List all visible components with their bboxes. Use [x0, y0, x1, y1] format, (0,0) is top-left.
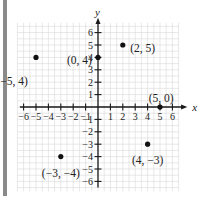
- y-tick-label: −6: [82, 176, 93, 187]
- y-tick-label: −4: [82, 151, 93, 162]
- y-axis-label: y: [94, 6, 100, 18]
- data-point-label: (−3, −4): [42, 167, 80, 180]
- y-tick-label: −2: [82, 126, 93, 137]
- y-tick-label: 3: [88, 64, 93, 75]
- x-tick-label: −5: [31, 111, 42, 122]
- y-axis-arrow-icon: [96, 18, 101, 24]
- coordinate-plane: xy −6−5−4−3−2−1123456−6−5−4−3−2−1123456 …: [0, 0, 204, 203]
- x-tick-label: −3: [55, 111, 66, 122]
- y-tick-label: 5: [88, 40, 93, 51]
- x-tick-label: −2: [68, 111, 79, 122]
- x-tick-label: 4: [145, 111, 150, 122]
- x-tick-label: 3: [133, 111, 138, 122]
- y-tick-label: 1: [88, 89, 93, 100]
- data-point-label: (−5, 4): [0, 75, 28, 88]
- y-tick-label: 6: [88, 27, 93, 38]
- x-axis-arrow-icon: [181, 105, 187, 110]
- data-point-label: (0, 4): [67, 54, 92, 67]
- x-tick-label: −6: [18, 111, 29, 122]
- data-point-label: (5, 0): [149, 92, 174, 105]
- y-tick-label: −3: [82, 139, 93, 150]
- x-tick-label: 1: [108, 111, 113, 122]
- data-point: [58, 154, 63, 159]
- data-point: [120, 42, 125, 47]
- y-tick-label: −1: [82, 114, 93, 125]
- y-tick-label: 2: [88, 77, 93, 88]
- data-point-label: (4, −3): [132, 154, 164, 167]
- data-point: [95, 55, 100, 60]
- data-point: [145, 142, 150, 147]
- data-point: [157, 104, 162, 109]
- x-tick-label: 5: [158, 111, 163, 122]
- data-point: [33, 55, 38, 60]
- x-tick-label: −4: [43, 111, 54, 122]
- x-tick-label: 2: [120, 111, 125, 122]
- x-axis-label: x: [191, 101, 197, 113]
- y-tick-label: −5: [82, 164, 93, 175]
- data-point-label: (2, 5): [130, 42, 155, 55]
- x-tick-label: 6: [170, 111, 175, 122]
